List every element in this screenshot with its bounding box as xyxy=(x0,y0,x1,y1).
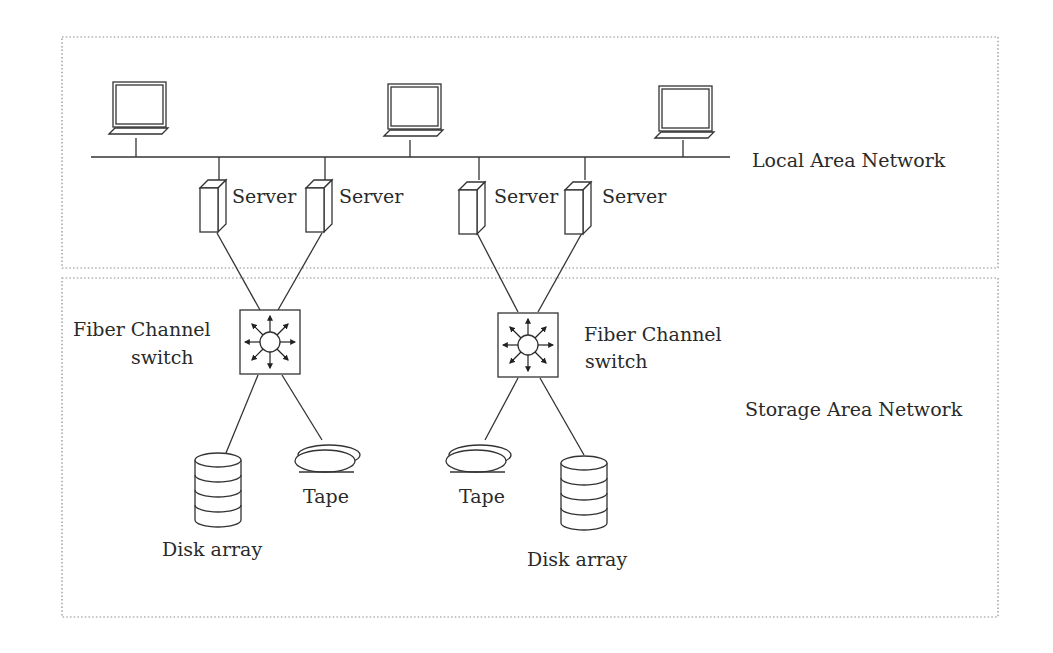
disk-array-label: Disk array xyxy=(162,538,262,560)
switch-label-line2: switch xyxy=(585,350,648,372)
tape-icon xyxy=(295,445,360,472)
fiber-channel-switch-2: Fiber Channel switch xyxy=(498,313,722,377)
switch-label-line1: Fiber Channel xyxy=(73,318,211,340)
server-label: Server xyxy=(339,185,404,207)
server-4: Server xyxy=(565,182,667,234)
disk-array-icon xyxy=(561,456,607,530)
san-label: Storage Area Network xyxy=(745,398,963,420)
server-2: Server xyxy=(306,180,404,232)
server-3: Server xyxy=(459,182,559,234)
tape-icon xyxy=(446,445,511,472)
server-label: Server xyxy=(602,185,667,207)
disk-array-1: Disk array xyxy=(162,453,262,560)
server-icon xyxy=(306,180,332,232)
disk-array-2: Disk array xyxy=(527,456,627,570)
laptop-icon xyxy=(655,86,714,138)
switch-label-line1: Fiber Channel xyxy=(584,323,722,345)
disk-array-icon xyxy=(195,453,241,527)
server-icon xyxy=(565,182,591,234)
network-diagram: Local Area Network Storage Area Network … xyxy=(0,0,1053,653)
lan-label: Local Area Network xyxy=(752,149,946,171)
fiber-channel-switch-1: Fiber Channel switch xyxy=(73,310,300,374)
tape-label: Tape xyxy=(459,485,505,507)
server-label: Server xyxy=(494,185,559,207)
server-icon xyxy=(200,180,226,232)
switch-icon xyxy=(240,310,300,374)
tape-label: Tape xyxy=(303,485,349,507)
laptop-icon xyxy=(384,84,443,136)
server-icon xyxy=(459,182,485,234)
server-label: Server xyxy=(232,185,297,207)
tape-2: Tape xyxy=(446,445,511,507)
laptop-icon xyxy=(109,82,168,134)
tape-1: Tape xyxy=(295,445,360,507)
lan-region: Local Area Network xyxy=(62,37,998,268)
server-1: Server xyxy=(200,180,297,232)
switch-label-line2: switch xyxy=(131,346,194,368)
disk-array-label: Disk array xyxy=(527,548,627,570)
switch-icon xyxy=(498,313,558,377)
